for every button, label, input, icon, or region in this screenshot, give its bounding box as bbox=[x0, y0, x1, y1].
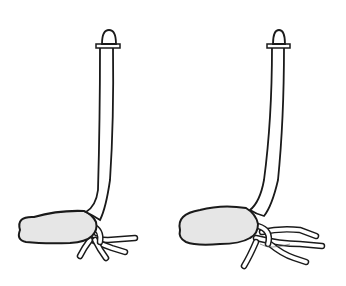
right-tip bbox=[267, 30, 290, 48]
seedling-illustration bbox=[0, 0, 346, 286]
left-seedling bbox=[19, 30, 135, 258]
right-stem bbox=[250, 47, 284, 216]
left-tip bbox=[96, 30, 120, 48]
figure-canvas bbox=[0, 0, 346, 286]
right-seedling bbox=[179, 30, 322, 266]
left-seed bbox=[19, 211, 97, 243]
left-stem bbox=[86, 47, 113, 220]
right-seed bbox=[179, 206, 258, 244]
